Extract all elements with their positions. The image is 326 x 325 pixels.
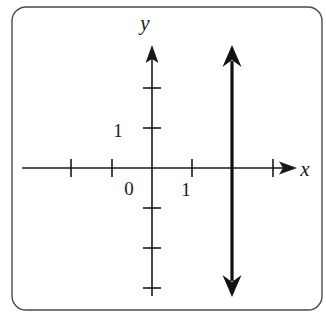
y-axis-label: y [138,11,150,35]
x-axis-tick-labels: 1 [181,179,191,200]
origin-label: 0 [124,178,134,199]
coordinate-plane-svg: x 1 y 1 0 [0,0,326,325]
y-axis-tick-label: 1 [113,120,123,141]
x-axis-label: x [299,157,310,181]
y-axis-tick-labels: 1 [113,120,123,141]
figure-background [0,0,326,325]
x-axis-tick-label: 1 [181,179,191,200]
figure-root: x 1 y 1 0 [0,0,326,325]
